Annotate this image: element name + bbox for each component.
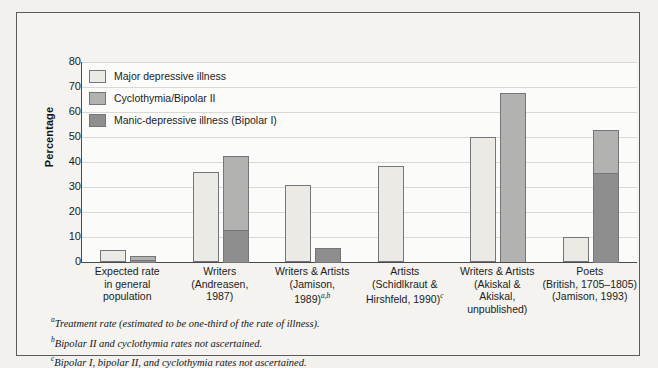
bar-segment-manic-depressive-illness: [223, 230, 249, 264]
bar-major-depressive-illness: [100, 250, 126, 263]
figure-container: Percentage 01020304050607080 Major depre…: [0, 0, 658, 368]
legend-item: Major depressive illness: [89, 66, 339, 86]
footnotes: aTreatment rate (estimated to be one-thi…: [51, 312, 471, 368]
y-axis-ticks: 01020304050607080: [45, 62, 81, 262]
legend-swatch-icon: [89, 114, 106, 127]
x-axis-category-label: Poets(British, 1705–1805)(Jamison, 1993): [532, 265, 649, 303]
y-tick-label: 30: [55, 181, 81, 192]
legend-swatch-icon: [89, 70, 106, 83]
legend-item: Cyclothymia/Bipolar II: [89, 88, 339, 108]
y-tick-label: 20: [55, 206, 81, 217]
footnote-text: Bipolar I, bipolar II, and cyclothymia r…: [54, 357, 306, 368]
y-tick-label: 60: [55, 106, 81, 117]
category-label-line: (Jamison, 1993): [532, 290, 649, 303]
bar-bipolar-stack: [593, 130, 619, 263]
y-tick-label: 50: [55, 131, 81, 142]
bar-major-depressive-illness: [193, 172, 219, 262]
y-tick-label: 70: [55, 81, 81, 92]
footnote-text: Treatment rate (estimated to be one-thir…: [55, 318, 320, 329]
bar-bipolar-stack: [223, 156, 249, 262]
footnote-line: cBipolar I, bipolar II, and cyclothymia …: [51, 351, 471, 368]
bar-major-depressive-illness: [563, 237, 589, 262]
bar-group: [452, 62, 545, 262]
footnote-marker: a,b: [321, 291, 330, 300]
y-tick-label: 40: [55, 156, 81, 167]
category-label-line: Poets: [532, 265, 649, 278]
bar-segment-manic-depressive-illness: [593, 173, 619, 263]
footnote-line: aTreatment rate (estimated to be one-thi…: [51, 312, 471, 332]
category-label-line: (British, 1705–1805): [532, 278, 649, 291]
bar-group: [545, 62, 638, 262]
footnote-text: Bipolar II and cyclothymia rates not asc…: [55, 337, 262, 348]
legend-swatch-icon: [89, 92, 106, 105]
chart-legend: Major depressive illnessCyclothymia/Bipo…: [89, 66, 339, 132]
bar-segment-manic-depressive-illness: [130, 260, 156, 264]
legend-item-label: Major depressive illness: [114, 70, 226, 82]
legend-item-label: Cyclothymia/Bipolar II: [114, 92, 216, 104]
bar-group: [360, 62, 453, 262]
bar-segment-manic-depressive-illness: [315, 248, 341, 263]
bar-major-depressive-illness: [285, 185, 311, 263]
legend-item-label: Manic-depressive illness (Bipolar I): [114, 114, 277, 126]
bar-major-depressive-illness: [378, 166, 404, 262]
bar-bipolar-stack: [130, 256, 156, 262]
y-tick-label: 80: [55, 56, 81, 67]
legend-item: Manic-depressive illness (Bipolar I): [89, 110, 339, 130]
bar-major-depressive-illness: [470, 137, 496, 262]
footnote-line: bBipolar II and cyclothymia rates not as…: [51, 332, 471, 352]
bar-bipolar-stack: [500, 93, 526, 262]
figure-frame: Percentage 01020304050607080 Major depre…: [16, 12, 640, 356]
bar-bipolar-stack: [315, 248, 341, 262]
y-tick-label: 10: [55, 231, 81, 242]
